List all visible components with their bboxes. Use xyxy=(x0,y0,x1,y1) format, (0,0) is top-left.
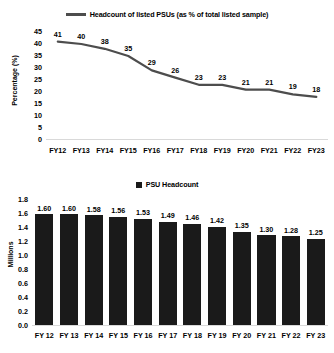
bar-chart-y-tick-label: 1.8 xyxy=(6,196,28,203)
bar-chart-bar-slot[interactable]: 1.58 xyxy=(81,200,106,326)
line-chart-point-label: 19 xyxy=(289,82,297,91)
bar-chart-bar[interactable] xyxy=(307,239,325,327)
bar-chart-x-label: FY 17 xyxy=(155,331,180,340)
line-chart-point-label: 21 xyxy=(265,78,273,87)
bar-chart-y-tick-label: 0.0 xyxy=(6,322,28,329)
line-chart-point-label: 23 xyxy=(218,73,226,82)
legend-square-swatch-icon xyxy=(136,182,142,188)
bar-chart: PSU Headcount Millions 1.81.61.41.21.00.… xyxy=(0,176,334,353)
bar-chart-y-tick-label: 0.4 xyxy=(6,294,28,301)
bar-chart-value-label: 1.30 xyxy=(259,225,273,234)
legend-label-headcount-percent: Headcount of listed PSUs (as % of total … xyxy=(90,10,269,19)
bar-chart-x-label: FY 14 xyxy=(81,331,106,340)
bar-chart-value-label: 1.60 xyxy=(37,204,51,213)
line-chart-y-tick-label: 25 xyxy=(22,76,42,83)
line-chart-x-label: FY12 xyxy=(46,146,70,155)
bar-chart-value-label: 1.58 xyxy=(87,205,101,214)
bar-chart-x-label: FY 22 xyxy=(279,331,304,340)
line-chart-point-label: 40 xyxy=(77,32,85,41)
bar-chart-bar-slot[interactable]: 1.28 xyxy=(279,200,304,326)
bar-chart-y-tick-label: 0.8 xyxy=(6,266,28,273)
bar-chart-plot-area: 1.601.601.581.561.531.491.461.421.351.30… xyxy=(32,200,328,326)
bar-chart-bar[interactable] xyxy=(233,232,251,327)
bar-chart-x-label: FY 19 xyxy=(205,331,230,340)
bar-chart-baseline xyxy=(32,325,328,326)
bar-chart-bar-slot[interactable]: 1.49 xyxy=(155,200,180,326)
bar-chart-bar-slot[interactable]: 1.56 xyxy=(106,200,131,326)
line-chart-x-label: FY18 xyxy=(187,146,211,155)
line-chart-y-axis-title: Percentage (%) xyxy=(11,45,18,117)
bar-chart-bar-slot[interactable]: 1.60 xyxy=(32,200,57,326)
bar-chart-x-label: FY 12 xyxy=(32,331,57,340)
line-chart-x-label: FY19 xyxy=(211,146,235,155)
bar-chart-value-label: 1.25 xyxy=(309,228,323,237)
bar-chart-y-tick-label: 1.4 xyxy=(6,224,28,231)
bar-chart-legend: PSU Headcount xyxy=(0,180,334,189)
legend-label-psu-headcount: PSU Headcount xyxy=(146,180,199,189)
bar-chart-bar[interactable] xyxy=(60,214,78,326)
line-chart-point-label: 38 xyxy=(101,37,109,46)
line-chart-point-label: 23 xyxy=(195,73,203,82)
line-chart-y-tick-label: 5 xyxy=(22,124,42,131)
bar-chart-bar-slot[interactable]: 1.53 xyxy=(131,200,156,326)
line-chart-point-label: 29 xyxy=(148,58,156,67)
line-chart-point-label: 26 xyxy=(171,66,179,75)
line-chart-legend: Headcount of listed PSUs (as % of total … xyxy=(0,10,334,19)
legend-line-swatch-icon xyxy=(66,13,86,15)
bar-chart-value-label: 1.49 xyxy=(161,211,175,220)
line-chart-y-tick-label: 0 xyxy=(22,136,42,143)
bar-chart-bar[interactable] xyxy=(35,214,53,326)
line-chart-x-label: FY13 xyxy=(70,146,94,155)
bar-chart-y-tick-label: 1.0 xyxy=(6,252,28,259)
bar-chart-y-tick-label: 1.6 xyxy=(6,210,28,217)
bar-chart-x-label: FY 21 xyxy=(254,331,279,340)
line-chart-x-label: FY21 xyxy=(258,146,282,155)
line-chart-point-label: 41 xyxy=(54,30,62,39)
bar-chart-value-label: 1.46 xyxy=(185,213,199,222)
bar-chart-bar-slot[interactable]: 1.42 xyxy=(205,200,230,326)
bar-chart-x-axis-labels: FY 12FY 13FY 14FY 15FY 16FY 17FY 18FY 19… xyxy=(32,331,328,340)
bar-chart-value-label: 1.28 xyxy=(284,226,298,235)
bar-chart-x-label: FY 16 xyxy=(131,331,156,340)
bar-chart-bar-slot[interactable]: 1.30 xyxy=(254,200,279,326)
line-chart-point-label: 21 xyxy=(242,78,250,87)
bar-chart-value-label: 1.60 xyxy=(62,204,76,213)
bar-chart-bar-slot[interactable]: 1.46 xyxy=(180,200,205,326)
bar-chart-bar[interactable] xyxy=(257,235,275,326)
bar-chart-value-label: 1.56 xyxy=(111,206,125,215)
line-chart-y-tick-label: 20 xyxy=(22,88,42,95)
bar-chart-y-tick-label: 0.6 xyxy=(6,280,28,287)
line-chart-y-tick-label: 30 xyxy=(22,64,42,71)
bar-chart-bar[interactable] xyxy=(85,215,103,326)
line-chart-y-tick-label: 10 xyxy=(22,112,42,119)
line-chart-y-tick-label: 35 xyxy=(22,52,42,59)
line-chart-y-tick-label: 15 xyxy=(22,100,42,107)
line-chart-x-axis-labels: FY12FY13FY14FY15FY16FY17FY18FY19FY20FY21… xyxy=(46,146,328,155)
line-chart-point-label: 35 xyxy=(124,44,132,53)
line-chart-x-label: FY20 xyxy=(234,146,258,155)
bar-chart-x-label: FY 18 xyxy=(180,331,205,340)
bar-chart-bar[interactable] xyxy=(159,222,177,326)
bar-chart-bar[interactable] xyxy=(208,227,226,326)
bar-chart-bar[interactable] xyxy=(134,219,152,326)
line-chart-x-label: FY22 xyxy=(281,146,305,155)
bar-chart-y-ticks: 1.81.61.41.21.00.80.60.40.20.0 xyxy=(6,200,28,326)
bar-chart-value-label: 1.42 xyxy=(210,216,224,225)
bar-chart-bar-slot[interactable]: 1.35 xyxy=(229,200,254,326)
bar-chart-bar[interactable] xyxy=(282,236,300,326)
bar-chart-series: 1.601.601.581.561.531.491.461.421.351.30… xyxy=(32,200,328,326)
line-chart-y-tick-label: 40 xyxy=(22,40,42,47)
bar-chart-x-label: FY 23 xyxy=(303,331,328,340)
bar-chart-x-label: FY 20 xyxy=(229,331,254,340)
line-chart-x-label: FY17 xyxy=(164,146,188,155)
bar-chart-y-tick-label: 0.2 xyxy=(6,308,28,315)
line-chart-data-labels: 414038352926232321211918 xyxy=(46,20,328,140)
line-chart: Headcount of listed PSUs (as % of total … xyxy=(0,0,334,176)
line-chart-x-label: FY14 xyxy=(93,146,117,155)
figure-container: Headcount of listed PSUs (as % of total … xyxy=(0,0,334,353)
bar-chart-bar-slot[interactable]: 1.25 xyxy=(303,200,328,326)
bar-chart-bar[interactable] xyxy=(109,217,127,326)
bar-chart-x-label: FY 15 xyxy=(106,331,131,340)
bar-chart-bar-slot[interactable]: 1.60 xyxy=(57,200,82,326)
bar-chart-bar[interactable] xyxy=(183,224,201,326)
